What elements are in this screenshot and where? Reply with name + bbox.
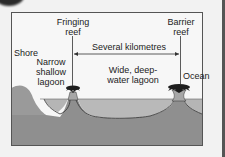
narrow-lagoon-label-line3: lagoon bbox=[34, 77, 68, 87]
wide-lagoon-label: Wide, deep- water lagoon bbox=[100, 65, 166, 85]
narrow-lagoon-label-line2: shallow bbox=[34, 67, 68, 77]
barrier-reef-label-line1: Barrier bbox=[161, 17, 201, 27]
wide-lagoon-label-line2: water lagoon bbox=[100, 75, 166, 85]
barrier-reef-label: Barrier reef bbox=[161, 17, 201, 37]
barrier-reef-label-line2: reef bbox=[161, 27, 201, 37]
distance-label: Several kilometres bbox=[89, 42, 169, 52]
ocean-label: Ocean bbox=[183, 71, 210, 81]
fringing-reef bbox=[68, 92, 78, 100]
fringing-reef-label-line2: reef bbox=[53, 27, 93, 37]
fringing-reef-label-line1: Fringing bbox=[53, 17, 93, 27]
right-edge-bar bbox=[222, 0, 225, 157]
fringing-reef-label: Fringing reef bbox=[53, 17, 93, 37]
narrow-lagoon-label-line1: Narrow bbox=[34, 57, 68, 67]
wide-lagoon-label-line1: Wide, deep- bbox=[100, 65, 166, 75]
narrow-lagoon-label: Narrow shallow lagoon bbox=[34, 57, 68, 87]
barrier-reef-diagram: Fringing reef Barrier reef Several kilom… bbox=[0, 0, 225, 157]
